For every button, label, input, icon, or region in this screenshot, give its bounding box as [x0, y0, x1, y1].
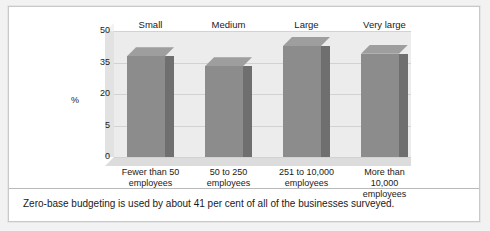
gridline	[114, 157, 411, 158]
category-label-line: More than	[342, 167, 428, 178]
bar-column	[205, 66, 252, 157]
caption-divider	[9, 188, 479, 189]
category-label-line: 50 to 250	[186, 167, 272, 178]
bar-column	[283, 46, 330, 157]
bar-side-face	[321, 46, 330, 157]
bar-front-face	[361, 54, 399, 157]
y-tick-label: 35	[84, 58, 110, 67]
figure-caption: Zero-base budgeting is used by about 41 …	[23, 198, 469, 209]
category-label: 251 to 10,000employees	[264, 167, 350, 189]
y-tick-label: 5	[84, 121, 110, 130]
bar-column	[361, 54, 408, 157]
bar-column	[127, 56, 174, 157]
bar-side-face	[243, 66, 252, 157]
group-label: Medium	[191, 19, 267, 30]
y-tick-label: 0	[84, 152, 110, 161]
bar-side-face	[165, 56, 174, 157]
bar-chart: 50352050 % SmallMediumLargeVery large Fe…	[9, 7, 481, 188]
bar-front-face	[205, 66, 243, 157]
group-label: Very large	[347, 19, 423, 30]
plot-floor	[105, 157, 411, 166]
category-label: More than10,000employees	[342, 167, 428, 200]
bar-side-face	[399, 54, 408, 157]
figure-panel: 50352050 % SmallMediumLargeVery large Fe…	[8, 6, 480, 222]
category-label-line: Fewer than 50	[108, 167, 194, 178]
category-label: 50 to 250employees	[186, 167, 272, 189]
bar-front-face	[283, 46, 321, 157]
group-label: Small	[113, 19, 189, 30]
category-label: Fewer than 50employees	[108, 167, 194, 189]
gridline	[114, 31, 411, 32]
group-label: Large	[269, 19, 345, 30]
y-tick-label: 50	[84, 26, 110, 35]
bar-front-face	[127, 56, 165, 157]
y-tick-label: 20	[84, 89, 110, 98]
category-label-line: 251 to 10,000	[264, 167, 350, 178]
y-axis-label: %	[71, 95, 79, 105]
